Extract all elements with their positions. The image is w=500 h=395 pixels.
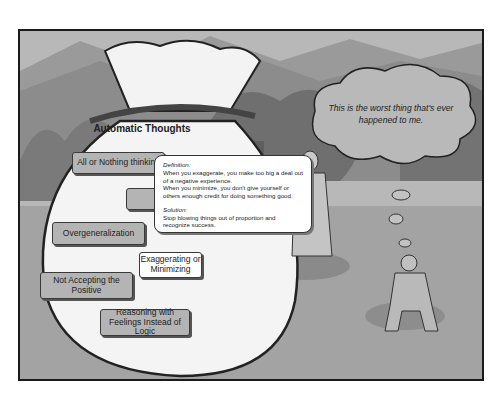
definition-tooltip: Definition: When you exaggerate, you mak…	[154, 155, 312, 233]
thought-bubble-text: This is the worst thing that's ever happ…	[320, 103, 462, 126]
definition-line-2: When you minimize, you don't give yourse…	[163, 184, 303, 200]
definition-heading: Definition:	[163, 161, 303, 169]
bag-title: Automatic Thoughts	[72, 123, 212, 134]
option-reasoning-with-feelings[interactable]: Reasoning with Feelings Instead of Logic	[100, 309, 190, 336]
option-exaggerating-or-minimizing[interactable]: Exaggerating or Minimizing	[139, 252, 202, 278]
definition-line-1: When you exaggerate, you make too big a …	[163, 169, 303, 185]
option-not-accepting-positive[interactable]: Not Accepting the Positive	[40, 272, 133, 299]
solution-text: Stop blowing things out of proportion an…	[163, 214, 303, 230]
solution-heading: Solution:	[163, 206, 303, 214]
option-overgeneralization[interactable]: Overgeneralization	[52, 222, 145, 245]
option-all-or-nothing[interactable]: All or Nothing thinking	[72, 152, 165, 174]
game-frame: Automatic Thoughts All or Nothing thinki…	[18, 29, 484, 381]
